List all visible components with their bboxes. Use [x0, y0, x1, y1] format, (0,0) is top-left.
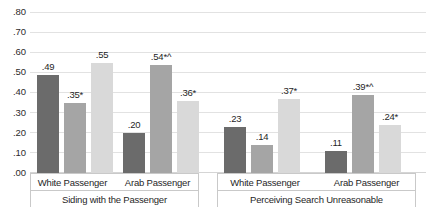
y-tick-label: .00	[0, 168, 26, 177]
bar-value-label: .54*^	[141, 52, 181, 62]
bar-value-label: .23	[215, 114, 255, 124]
y-tick-label: .40	[0, 87, 26, 96]
bar-value-label: .14	[242, 132, 282, 142]
bar-p0-g0-s1	[64, 103, 86, 173]
bar-value-label: .20	[114, 120, 154, 130]
plot-area: .49.35*.55.20.54*^.36*.23.14.37*.11.39*^…	[30, 12, 426, 173]
bar-value-label: .37*	[269, 86, 309, 96]
bar-p1-g1-s0	[325, 151, 347, 173]
category-axis-line-panel-1	[30, 173, 199, 174]
gridline	[30, 72, 426, 73]
bar-p1-g0-s2	[278, 99, 300, 173]
category-label-white-passenger-siding: White Passenger	[30, 177, 115, 188]
bar-value-label: .39*^	[343, 82, 383, 92]
category-label-arab-passenger-search: Arab Passenger	[318, 177, 415, 188]
y-tick-label: .80	[0, 7, 26, 16]
bar-p0-g1-s0	[123, 133, 145, 173]
bar-p1-g0-s1	[251, 145, 273, 173]
y-tick-label: .10	[0, 148, 26, 157]
bar-chart: .80 .70 .60 .50 .40 .30 .20 .10 .00 .49.…	[0, 0, 428, 219]
bar-p0-g0-s2	[91, 63, 113, 173]
y-tick-label: .60	[0, 47, 26, 56]
bar-p1-g1-s2	[379, 125, 401, 173]
y-tick-label: .70	[0, 27, 26, 36]
bar-p0-g1-s2	[177, 101, 199, 173]
panel-axis-line-1	[30, 190, 199, 191]
category-label-arab-passenger-siding: Arab Passenger	[116, 177, 199, 188]
bar-value-label: .35*	[55, 90, 95, 100]
bar-p1-g1-s1	[352, 95, 374, 173]
category-axis-line-panel-2	[217, 173, 416, 174]
panel-label-siding: Siding with the Passenger	[30, 194, 199, 205]
y-tick-label: .50	[0, 67, 26, 76]
category-label-white-passenger-search: White Passenger	[217, 177, 313, 188]
bar-value-label: .11	[316, 138, 356, 148]
gridline	[30, 32, 426, 33]
panel-axis-line-2	[217, 190, 416, 191]
bar-value-label: .55	[82, 50, 122, 60]
y-tick-label: .30	[0, 108, 26, 117]
y-tick-label: .20	[0, 128, 26, 137]
bar-value-label: .36*	[168, 88, 208, 98]
bar-value-label: .24*	[370, 112, 410, 122]
bar-p0-g1-s1	[150, 65, 172, 173]
bar-value-label: .49	[28, 62, 68, 72]
gridline	[30, 12, 426, 13]
panel-label-search: Perceiving Search Unreasonable	[217, 194, 416, 205]
